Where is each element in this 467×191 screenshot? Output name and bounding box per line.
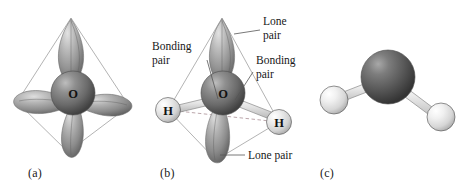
lone-pair-top-line2: pair — [263, 29, 281, 42]
oxygen-atom — [361, 50, 415, 104]
panel-b-caption: (b) — [160, 166, 175, 181]
lone-pair-bottom-line1: Lone pair — [248, 149, 293, 162]
hydrogen-atom-right: H — [267, 110, 292, 135]
callout-bonding-pair-left: Bonding pair — [152, 40, 192, 67]
callout-bonding-pair-right: Bonding pair — [256, 54, 296, 81]
water-geometry-figure: O (a) — [0, 0, 467, 191]
bonding-pair-left-line2: pair — [152, 54, 170, 67]
bonding-pair-right-line1: Bonding — [256, 54, 296, 67]
callout-lone-pair-top: Lone pair — [263, 15, 287, 42]
panel-a-orbital-model: O (a) — [0, 0, 150, 191]
leader-lone-pair-top — [234, 30, 260, 34]
hydrogen-atom-right — [427, 103, 455, 131]
panel-a-caption: (a) — [28, 166, 42, 181]
hydrogen-atom-left — [320, 86, 348, 114]
oxygen-atom: O — [51, 71, 95, 115]
bonding-pair-right-line2: pair — [256, 68, 274, 81]
hydrogen-atom-left: H — [156, 98, 181, 123]
panel-b-labeled-orbital-model: O H H Lone pair — [150, 0, 310, 191]
oxygen-atom: O — [201, 71, 245, 115]
panel-c-ball-and-stick-model: (c) — [310, 0, 467, 191]
hydrogen-left-label: H — [163, 104, 173, 118]
oxygen-label: O — [68, 87, 78, 101]
hydrogen-right-label: H — [274, 116, 284, 130]
panel-b-graphic: O H H Lone pair — [150, 0, 310, 191]
panel-c-caption: (c) — [320, 166, 334, 181]
bonding-pair-left-line1: Bonding — [152, 40, 192, 53]
callout-lone-pair-bottom: Lone pair — [248, 149, 293, 162]
oxygen-label: O — [218, 87, 228, 101]
lone-pair-top-line1: Lone — [263, 15, 287, 27]
panel-c-graphic — [310, 0, 467, 191]
panel-a-graphic: O — [0, 0, 150, 191]
